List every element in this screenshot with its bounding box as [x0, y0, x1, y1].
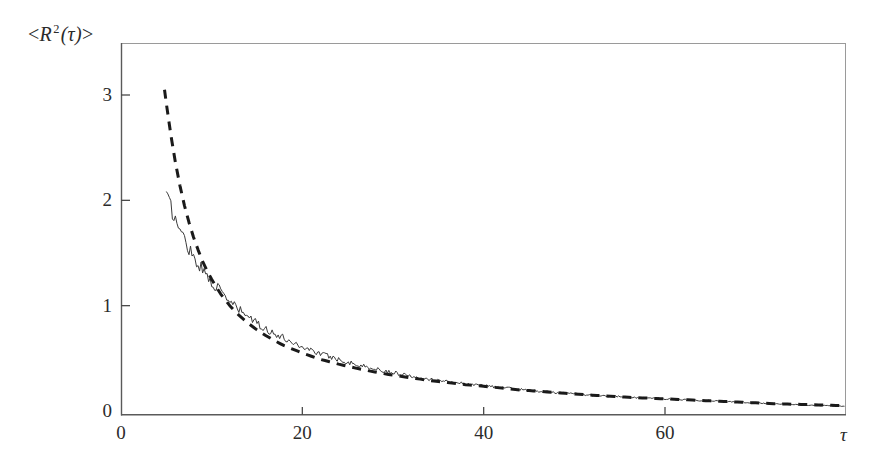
x-tick-label: 20: [293, 422, 312, 444]
axis-ticks: [121, 95, 665, 415]
x-tick-label: 60: [656, 422, 675, 444]
y-tick-label: 3: [92, 84, 112, 106]
y-tick-label: 2: [92, 189, 112, 211]
plot-area: [0, 0, 876, 467]
figure-canvas: <R2(τ)> τ 02040600123: [0, 0, 876, 467]
series-simulation-noisy: [166, 192, 844, 407]
y-tick-label: 1: [92, 295, 112, 317]
y-tick-label: 0: [92, 400, 112, 422]
x-tick-label: 0: [116, 422, 126, 444]
axes-frame: [121, 43, 846, 416]
data-series: [165, 90, 845, 407]
x-tick-label: 40: [474, 422, 493, 444]
series-theory-dashed: [165, 90, 845, 406]
